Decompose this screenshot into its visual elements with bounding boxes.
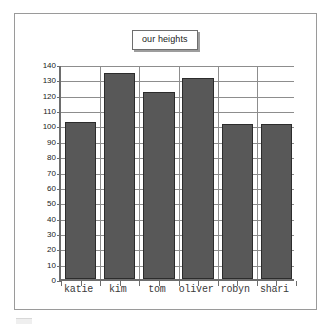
y-axis-tick [57,112,61,113]
y-axis-tick [57,66,61,67]
y-axis-tick-label: 40 [30,216,56,224]
x-axis-label-kim: kim [98,284,137,296]
y-axis-tick [57,81,61,82]
bar-katie [65,122,96,279]
y-axis-tick-label: 80 [30,154,56,162]
chart-frame: our heights 1401301201101009080706050403… [14,13,317,310]
y-axis-tick-label: 100 [30,123,56,131]
y-axis-tick-label: 140 [30,62,56,70]
y-axis-tick-label: 130 [30,77,56,85]
bar-oliver [182,78,213,279]
y-axis-tick-label: 50 [30,200,56,208]
x-axis-label-tom: tom [137,284,176,296]
y-axis-tick-labels: 1401301201101009080706050403020100 [28,14,56,311]
chart-canvas: our heights 1401301201101009080706050403… [15,14,318,311]
y-axis-tick [57,97,61,98]
y-axis-tick-label: 120 [30,93,56,101]
bar-kim [104,73,135,279]
bar-robyn [222,124,253,279]
bar-tom [143,92,174,279]
y-axis-tick [57,235,61,236]
y-axis-tick-label: 90 [30,139,56,147]
y-axis-tick [57,189,61,190]
x-axis-label-katie: katie [59,284,98,296]
y-axis-tick [57,266,61,267]
y-axis-tick [57,204,61,205]
y-axis-tick-label: 10 [30,262,56,270]
y-axis-tick-label: 30 [30,231,56,239]
y-axis-tick-label: 110 [30,108,56,116]
y-axis-tick-label: 60 [30,185,56,193]
bar-shari [261,124,292,279]
y-axis-tick [57,174,61,175]
y-axis-tick [57,127,61,128]
y-axis-tick [57,250,61,251]
y-axis-tick-label: 70 [30,170,56,178]
y-axis-tick [57,143,61,144]
x-axis-category-labels: katiekimtomoliverrobynshari [59,284,294,300]
x-axis-label-robyn: robyn [216,284,255,296]
y-axis-tick-label: 20 [30,246,56,254]
plot-area [59,66,294,281]
x-axis-label-oliver: oliver [177,284,216,296]
y-axis-tick-label: 0 [30,277,56,285]
x-axis-label-shari: shari [255,284,294,296]
bar-series [61,66,294,279]
y-axis-tick [57,158,61,159]
y-axis-tick [57,220,61,221]
x-axis-tick [296,281,297,286]
page-artifact [16,318,32,324]
chart-title: our heights [132,30,198,50]
